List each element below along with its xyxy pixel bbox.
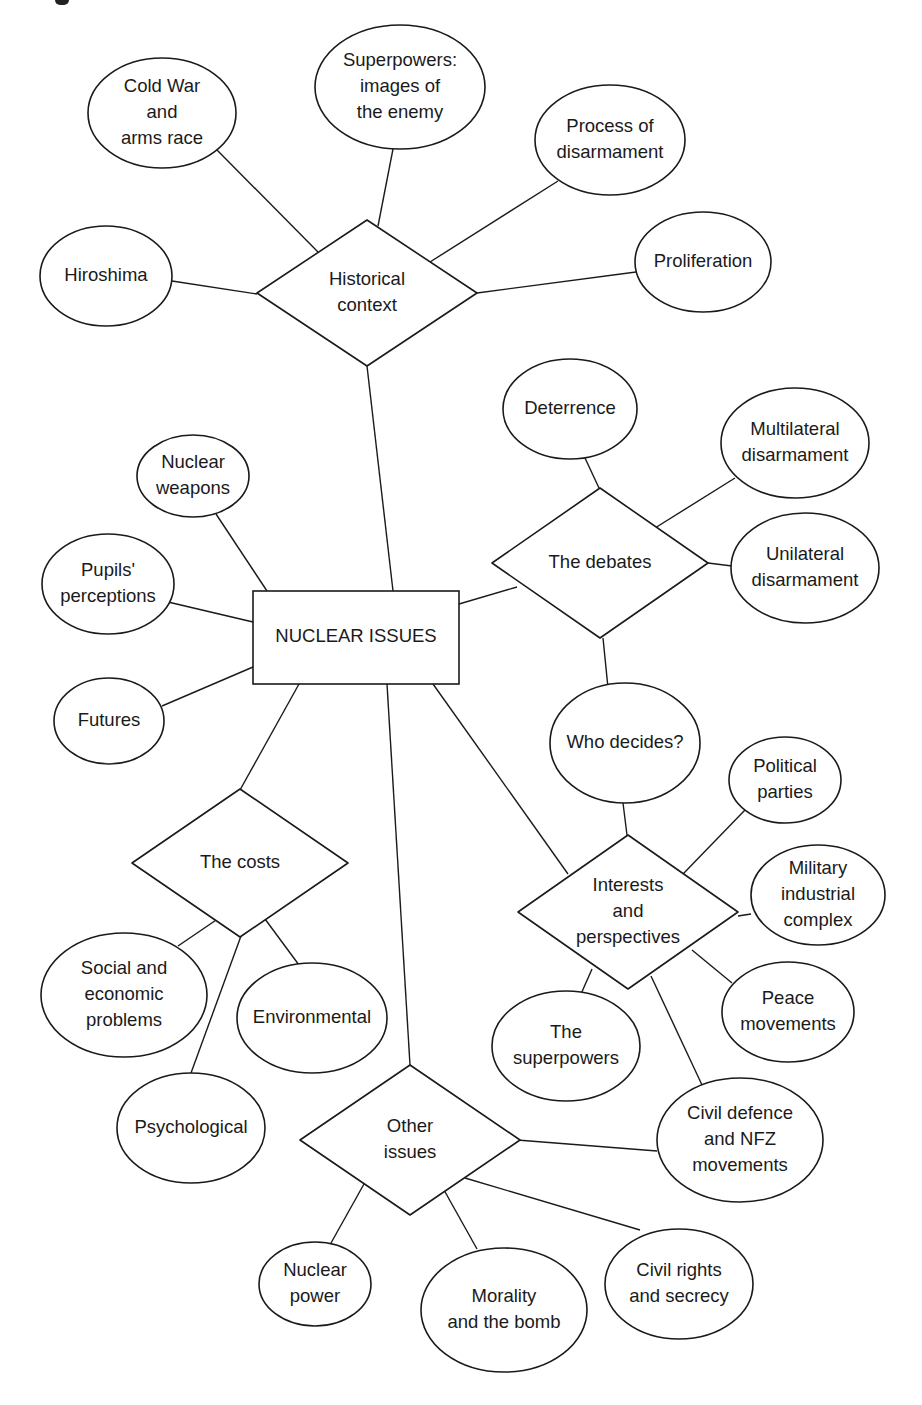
connector-line xyxy=(683,810,745,874)
connector-line xyxy=(651,976,702,1085)
topic-the-superpowers: Thesuperpowers xyxy=(492,991,640,1101)
topic-deterrence: Deterrence xyxy=(503,359,637,459)
node-label-line: Other xyxy=(387,1115,433,1136)
subtopic-historical-context: Historicalcontext xyxy=(257,220,477,366)
connector-line xyxy=(623,803,627,835)
node-label-line: context xyxy=(337,294,397,315)
connector-line xyxy=(265,919,299,965)
node-label-line: Historical xyxy=(329,268,405,289)
connector-line xyxy=(430,181,558,262)
connector-line xyxy=(477,272,636,293)
node-label-line: perceptions xyxy=(60,585,156,606)
connector-line xyxy=(378,149,393,226)
central-topic-nuclear-issues: NUCLEAR ISSUES xyxy=(253,591,459,684)
node-label-line: complex xyxy=(784,909,854,930)
node-label-line: Deterrence xyxy=(524,397,616,418)
node-label-line: Psychological xyxy=(134,1116,247,1137)
node-label-line: Interests xyxy=(593,874,664,895)
topic-civil-defence-nfz: Civil defenceand NFZmovements xyxy=(657,1078,823,1202)
node-label-line: and the bomb xyxy=(447,1311,560,1332)
connector-line xyxy=(708,563,732,566)
node-label-line: Environmental xyxy=(253,1006,371,1027)
topic-peace-movements: Peacemovements xyxy=(722,962,854,1062)
connector-line xyxy=(331,1184,364,1243)
node-label-line: superpowers xyxy=(513,1047,619,1068)
topic-social-economic-problems: Social andeconomicproblems xyxy=(41,933,207,1057)
node-label-line: The debates xyxy=(549,551,652,572)
node-label-line: Unilateral xyxy=(766,543,844,564)
subtopic-the-costs: The costs xyxy=(132,789,348,937)
connector-line xyxy=(387,684,410,1065)
node-label-line: economic xyxy=(84,983,163,1004)
node-label-line: weapons xyxy=(155,477,230,498)
connector-line xyxy=(216,514,267,591)
node-label-line: disarmament xyxy=(752,569,859,590)
node-label-line: Nuclear xyxy=(161,451,225,472)
topic-multilateral-disarmament: Multilateraldisarmament xyxy=(721,388,869,498)
topic-nuclear-weapons: Nuclearweapons xyxy=(137,435,249,517)
node-label-line: parties xyxy=(757,781,813,802)
subtopic-interests-and-perspectives: Interestsandperspectives xyxy=(518,835,738,989)
topic-political-parties: Politicalparties xyxy=(729,737,841,823)
topic-superpowers-images: Superpowers:images ofthe enemy xyxy=(315,25,485,149)
connector-line xyxy=(367,366,393,591)
node-label-line: images of xyxy=(360,75,441,96)
topic-cold-war: Cold Warandarms race xyxy=(88,58,236,168)
topic-unilateral-disarmament: Unilateraldisarmament xyxy=(731,513,879,623)
connector-line xyxy=(444,1190,477,1249)
node-label-line: arms race xyxy=(121,127,203,148)
node-label-line: NUCLEAR ISSUES xyxy=(275,625,436,646)
node-label-line: movements xyxy=(740,1013,836,1034)
connector-line xyxy=(517,1140,657,1151)
connector-line xyxy=(172,281,257,294)
node-label-line: power xyxy=(290,1285,340,1306)
topic-civil-rights-secrecy: Civil rightsand secrecy xyxy=(605,1229,753,1339)
topic-hiroshima: Hiroshima xyxy=(40,226,172,326)
connector-line xyxy=(581,969,592,994)
node-label-line: Who decides? xyxy=(566,731,683,752)
connector-line xyxy=(240,684,299,790)
node-label-line: Multilateral xyxy=(750,418,839,439)
connector-line xyxy=(459,587,517,604)
connector-line xyxy=(692,950,732,983)
node-label-line: Military xyxy=(789,857,848,878)
node-label-line: Nuclear xyxy=(283,1259,347,1280)
node-label-line: industrial xyxy=(781,883,855,904)
topic-who-decides: Who decides? xyxy=(550,683,700,803)
topic-proliferation: Proliferation xyxy=(635,212,771,312)
subtopic-the-debates: The debates xyxy=(492,488,708,638)
node-label-line: Futures xyxy=(78,709,141,730)
node-label-line: movements xyxy=(692,1154,788,1175)
node-label-line: Political xyxy=(753,755,817,776)
node-label-line: disarmament xyxy=(557,141,664,162)
node-label-line: Peace xyxy=(762,987,814,1008)
connector-line xyxy=(738,914,751,916)
node-label-line: Hiroshima xyxy=(64,264,148,285)
node-label-line: Superpowers: xyxy=(343,49,457,70)
node-label-line: problems xyxy=(86,1009,162,1030)
node-label-line: Pupils' xyxy=(81,559,135,580)
node-label-line: disarmament xyxy=(742,444,849,465)
topic-process-of-disarmament: Process ofdisarmament xyxy=(535,85,685,195)
node-label-line: issues xyxy=(384,1141,436,1162)
node-label-line: Process of xyxy=(566,115,654,136)
connector-line xyxy=(168,602,253,622)
node-label-line: Proliferation xyxy=(654,250,753,271)
connector-line xyxy=(465,1178,640,1230)
connector-line xyxy=(585,458,599,488)
node-label-line: the enemy xyxy=(357,101,444,122)
subtopic-other-issues: Otherissues xyxy=(300,1065,520,1215)
node-label-line: and NFZ xyxy=(704,1128,776,1149)
connector-line xyxy=(433,684,568,874)
nuclear-issues-concept-map: NUCLEAR ISSUESHistoricalcontextThe debat… xyxy=(0,0,922,1405)
node-label-line: Morality xyxy=(472,1285,538,1306)
connector-line xyxy=(217,150,318,252)
node-label-line: The xyxy=(550,1021,582,1042)
topic-pupils-perceptions: Pupils'perceptions xyxy=(42,534,174,634)
topic-morality-and-the-bomb: Moralityand the bomb xyxy=(421,1248,587,1372)
topic-environmental: Environmental xyxy=(237,963,387,1073)
topic-nuclear-power: Nuclearpower xyxy=(259,1242,371,1326)
connector-line xyxy=(162,667,253,706)
connector-line xyxy=(603,638,608,688)
node-label-line: perspectives xyxy=(576,926,680,947)
